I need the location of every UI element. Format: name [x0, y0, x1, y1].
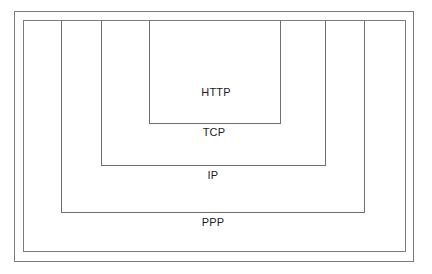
tcp-layer-box — [149, 21, 281, 124]
ip-label: IP — [208, 169, 219, 181]
ppp-label: PPP — [202, 216, 225, 228]
http-label: HTTP — [201, 86, 231, 98]
tcp-label: TCP — [203, 126, 226, 138]
